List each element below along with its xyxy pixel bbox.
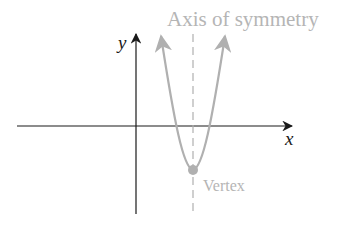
y-axis-label: y (116, 32, 127, 53)
axis-of-symmetry-label: Axis of symmetry (167, 7, 319, 31)
parabola-diagram: Axis of symmetry Vertex x y (0, 0, 338, 227)
parabola-left-branch (161, 36, 193, 170)
vertex-label: Vertex (203, 177, 245, 194)
parabola-right-branch (193, 36, 225, 170)
x-axis-label: x (284, 128, 294, 149)
vertex-point (188, 165, 198, 175)
